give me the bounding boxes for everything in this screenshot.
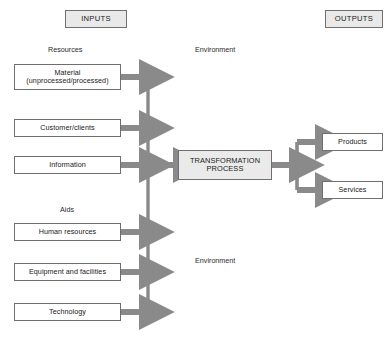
input-box-human-resources-label: Human resources xyxy=(39,228,96,236)
input-box-equipment-facilities: Equipment and facilities xyxy=(14,263,121,281)
output-arrows xyxy=(297,142,316,190)
input-box-equipment-facilities-label: Equipment and facilities xyxy=(29,268,106,276)
output-box-services-label: Services xyxy=(339,186,367,194)
environment-label-top: Environment xyxy=(195,45,235,54)
input-box-information: Information xyxy=(14,156,121,174)
transformation-process-line2: PROCESS xyxy=(207,165,244,173)
aids-group-label: Aids xyxy=(60,205,74,214)
environment-label-bottom: Environment xyxy=(195,256,235,265)
outputs-header-box: OUTPUTS xyxy=(325,10,383,28)
input-box-material-line2: (unprocessed/processed) xyxy=(26,77,108,85)
inputs-header-box: INPUTS xyxy=(65,10,127,28)
output-box-products: Products xyxy=(322,133,383,151)
input-box-human-resources: Human resources xyxy=(14,223,121,241)
input-box-customer-clients-label: Customer/clients xyxy=(40,124,94,132)
input-box-technology-label: Technology xyxy=(49,308,86,316)
output-box-products-label: Products xyxy=(338,138,367,146)
resources-group-label: Resources xyxy=(48,45,82,54)
input-box-customer-clients: Customer/clients xyxy=(14,119,121,137)
transformation-process-box: TRANSFORMATION PROCESS xyxy=(178,150,272,180)
inputs-header-label: INPUTS xyxy=(81,15,111,24)
input-arrows xyxy=(121,77,140,312)
input-box-information-label: Information xyxy=(49,161,86,169)
process-flow-diagram: INPUTS OUTPUTS Resources Aids Environmen… xyxy=(0,0,391,338)
input-box-technology: Technology xyxy=(14,303,121,321)
input-box-material: Material (unprocessed/processed) xyxy=(14,64,121,90)
output-box-services: Services xyxy=(322,181,383,199)
outputs-header-label: OUTPUTS xyxy=(335,15,373,24)
